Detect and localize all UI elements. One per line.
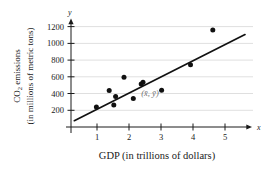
y-axis-title-line2: (in millions of metric tons): [25, 28, 35, 125]
data-point: [94, 104, 99, 109]
chart-background: [0, 0, 269, 170]
data-point: [111, 103, 116, 108]
x-tick-label-1: 1: [95, 132, 99, 142]
y-axis-title-emissions: emissions: [12, 49, 22, 87]
x-axis-title: GDP (in trillions of dollars): [99, 150, 216, 162]
y-tick-label-400: 400: [51, 89, 64, 99]
data-point: [113, 94, 118, 99]
y-tick-label-1000: 1000: [47, 38, 64, 48]
y-tick-label-600: 600: [51, 72, 64, 82]
data-point: [210, 28, 215, 33]
data-point: [141, 80, 146, 85]
y-axis-variable-label: y: [67, 8, 72, 17]
mean-point-annotation: (x̄, ȳ): [141, 88, 159, 98]
y-tick-label-200: 200: [51, 105, 64, 115]
data-point: [159, 88, 164, 93]
y-tick-label-800: 800: [51, 55, 64, 65]
x-axis-variable-label: x: [256, 123, 261, 132]
data-point: [131, 96, 136, 101]
y-axis-title-line1: CO2 emissions: [12, 49, 23, 103]
x-tick-label-3: 3: [159, 132, 163, 142]
scatter-plot-figure: 200 400 600 800 1000 1200 1 2 3 4 5 y x: [0, 0, 269, 170]
y-tick-label-1200: 1200: [47, 22, 64, 32]
x-tick-label-2: 2: [127, 132, 131, 142]
x-tick-label-5: 5: [223, 132, 227, 142]
data-point: [122, 75, 127, 80]
y-axis-title-co: CO: [12, 90, 22, 103]
chart-canvas: 200 400 600 800 1000 1200 1 2 3 4 5 y x: [0, 0, 269, 170]
data-point: [188, 62, 193, 67]
data-point: [107, 88, 112, 93]
